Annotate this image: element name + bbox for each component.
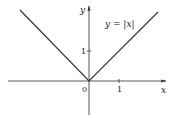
y-tick-label-1: 1 [81, 47, 86, 56]
x-axis-label: x [161, 85, 166, 95]
origin-label: 0 [82, 85, 87, 94]
plot-canvas: y x 0 1 1 y = |x| [0, 0, 171, 118]
abs-value-plot: y x 0 1 1 y = |x| [0, 0, 171, 118]
x-tick-label-1: 1 [117, 85, 122, 94]
y-axis-label: y [79, 5, 86, 15]
equation-label: y = |x| [104, 19, 135, 30]
